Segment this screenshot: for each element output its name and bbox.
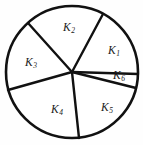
- sector-label-k6-base: K: [113, 69, 121, 81]
- sector-label-k1: K1: [108, 45, 120, 57]
- sector-label-k6: K6: [113, 70, 125, 82]
- sector-label-k5-subscript: 5: [109, 106, 113, 115]
- sector-label-k2-base: K: [63, 21, 71, 33]
- sector-label-k5: K5: [101, 102, 113, 114]
- sector-label-k4-subscript: 4: [59, 108, 63, 117]
- sector-label-k4-base: K: [51, 103, 59, 115]
- sector-label-k3-base: K: [25, 56, 33, 68]
- sector-diagram: K1 K2 K3 K4 K5 K6: [0, 0, 143, 145]
- sector-label-k6-subscript: 6: [121, 74, 125, 83]
- sector-label-k4: K4: [51, 104, 63, 116]
- sector-label-k5-base: K: [101, 101, 109, 113]
- sector-label-k3-subscript: 3: [33, 61, 37, 70]
- sector-label-k2: K2: [63, 22, 75, 34]
- sector-label-k1-base: K: [108, 44, 116, 56]
- sector-label-k2-subscript: 2: [71, 26, 75, 35]
- sector-label-k3: K3: [25, 57, 37, 69]
- sector-label-k1-subscript: 1: [116, 49, 120, 58]
